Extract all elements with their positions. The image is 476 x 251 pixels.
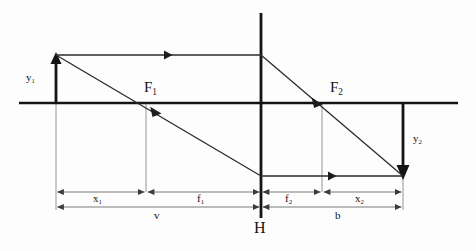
ray-parallel-refracted: [261, 55, 403, 176]
label-front-focal-length: f1: [197, 193, 204, 204]
label-lens-to-image-distance: b: [335, 210, 341, 221]
ray-parallel-incoming-arrowhead: [164, 51, 173, 60]
label-image-distance: x2: [355, 193, 364, 204]
label-object-to-lens-distance: v: [154, 210, 160, 221]
ray-through-front-focus: [56, 55, 261, 176]
label-object-height: y1: [26, 72, 35, 83]
ray-through-front-focus-arrowhead: [150, 107, 161, 117]
label-principal-plane: H: [254, 220, 266, 236]
label-back-focal-length: f2: [285, 193, 292, 204]
projection-guides: [56, 103, 403, 210]
label-front-focal-point: F1: [144, 80, 157, 95]
label-object-distance: x1: [93, 193, 102, 204]
ray-parallel-outgoing-arrowhead: [328, 172, 337, 181]
label-image-height: y2: [413, 133, 422, 144]
ray-diagram-figure: y1 y2 F1 F2 H x1 f1 f2 x2 v b: [0, 0, 476, 251]
label-back-focal-point: F2: [330, 80, 343, 95]
diagram-canvas: [0, 0, 476, 251]
